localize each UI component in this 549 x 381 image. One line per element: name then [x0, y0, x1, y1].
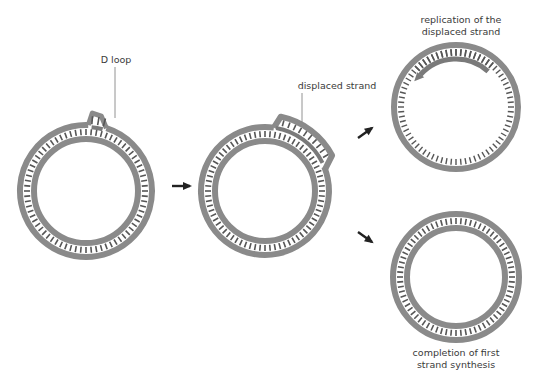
paired-tick — [469, 51, 471, 58]
base-pair-tick — [223, 149, 227, 153]
base-pair-tick — [249, 243, 251, 249]
base-pair-tick — [65, 133, 67, 139]
base-pair-tick — [114, 137, 117, 142]
base-pair-tick — [405, 304, 410, 307]
base-pair-tick — [486, 229, 489, 234]
base-pair-tick — [418, 318, 422, 323]
base-pair-tick — [508, 267, 514, 268]
base-pair-tick — [499, 74, 504, 77]
base-pair-tick — [436, 327, 438, 333]
base-pair-tick — [213, 218, 218, 221]
base-pair-tick — [431, 224, 434, 229]
base-pair-tick — [398, 267, 404, 268]
base-pair-tick — [50, 140, 53, 145]
base-pair-tick — [503, 129, 508, 132]
base-pair-tick — [24, 196, 30, 197]
base-pair-tick — [507, 97, 513, 98]
base-pair-tick — [408, 74, 413, 77]
base-pair-tick — [499, 137, 504, 140]
base-pair-tick — [255, 244, 256, 250]
base-pair-tick — [493, 66, 497, 70]
base-pair-tick — [118, 140, 121, 145]
base-pair-tick — [205, 196, 211, 197]
base-pair-tick — [507, 262, 513, 264]
base-pair-tick — [213, 161, 218, 164]
paired-tick — [436, 52, 438, 59]
base-pair-tick — [470, 220, 472, 226]
circle-completion-first — [393, 214, 519, 340]
base-pair-tick — [461, 159, 462, 165]
base-pair-tick — [91, 129, 92, 135]
base-pair-tick — [441, 220, 443, 226]
paired-tick — [423, 59, 427, 65]
paired-tick — [427, 57, 431, 63]
base-pair-tick — [314, 214, 319, 217]
displaced-tick — [320, 149, 325, 152]
base-pair-tick — [137, 165, 142, 168]
base-pair-tick — [270, 131, 271, 137]
base-pair-tick — [317, 205, 323, 207]
new-strand-segment — [92, 127, 103, 129]
base-pair-tick — [105, 244, 107, 250]
base-pair-tick — [141, 180, 147, 181]
base-pair-tick — [499, 243, 504, 246]
base-pair-tick — [244, 135, 246, 141]
base-pair-tick — [46, 144, 50, 149]
base-pair-tick — [411, 239, 416, 243]
label-replication-displaced: replication of the displaced strand — [406, 14, 516, 38]
base-pair-tick — [493, 314, 497, 318]
base-pair-tick — [403, 82, 408, 85]
base-pair-tick — [142, 196, 148, 197]
paired-tick — [482, 57, 486, 63]
base-pair-tick — [316, 170, 322, 172]
base-pair-tick — [508, 286, 514, 287]
base-pair-tick — [316, 209, 322, 211]
base-pair-tick — [226, 145, 230, 150]
base-pair-tick — [141, 201, 147, 202]
base-pair-tick — [100, 131, 102, 137]
base-pair-tick — [216, 222, 221, 225]
base-pair-tick — [100, 245, 102, 251]
base-pair-tick — [490, 318, 494, 323]
base-pair-tick — [504, 299, 509, 302]
base-pair-tick — [398, 112, 404, 113]
base-pair-tick — [478, 325, 481, 330]
base-pair-tick — [431, 154, 434, 159]
base-pair-tick — [469, 157, 471, 163]
base-pair-tick — [399, 97, 405, 98]
base-pair-tick — [446, 219, 447, 225]
base-pair-tick — [474, 222, 476, 228]
base-pair-tick — [398, 102, 404, 103]
base-pair-tick — [461, 218, 462, 224]
outer-strand — [393, 214, 519, 340]
base-pair-tick — [209, 209, 215, 211]
base-pair-tick — [483, 226, 486, 231]
base-pair-tick — [497, 311, 502, 315]
loop-tick — [98, 117, 99, 125]
base-pair-tick — [207, 205, 213, 207]
base-pair-tick — [422, 320, 425, 325]
base-pair-tick — [465, 158, 466, 164]
base-pair-tick — [279, 243, 281, 249]
base-pair-tick — [474, 327, 476, 333]
base-pair-tick — [240, 240, 243, 245]
base-pair-tick — [140, 175, 146, 177]
displaced-circle — [394, 45, 518, 169]
base-pair-tick — [81, 247, 82, 253]
base-pair-tick — [493, 144, 497, 148]
base-pair-tick — [427, 226, 430, 231]
base-pair-tick — [139, 210, 145, 212]
displaced-tick — [288, 122, 290, 128]
base-pair-tick — [209, 170, 215, 172]
label-line: replication of the — [406, 14, 516, 26]
base-pair-tick — [219, 226, 224, 230]
base-pair-tick — [406, 133, 411, 136]
base-pair-tick — [465, 329, 466, 335]
base-pair-tick — [142, 186, 148, 187]
base-pair-tick — [132, 155, 137, 158]
base-pair-tick — [505, 87, 511, 89]
base-pair-tick — [502, 248, 507, 251]
base-pair-tick — [496, 140, 501, 144]
base-pair-tick — [39, 151, 44, 155]
displaced-tick — [308, 135, 312, 140]
